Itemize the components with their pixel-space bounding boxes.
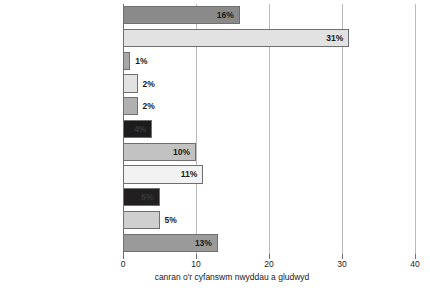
- bar-container: 11%: [123, 165, 203, 183]
- bar-row: pren, corc a gwydr5%: [123, 211, 415, 229]
- bar-value-label: 13%: [195, 238, 217, 248]
- bar-container: 31%: [123, 29, 349, 47]
- bar-value-label: 1%: [135, 56, 152, 66]
- bar-container: 5%: [123, 211, 182, 229]
- y-axis-line: [123, 4, 124, 254]
- x-axis-label: canran o'r cyfanswm nwyddau a gludwyd: [0, 272, 430, 282]
- bar[interactable]: 4%: [123, 120, 152, 138]
- bar-row: bwyd, diod a thybaco16%: [123, 6, 415, 24]
- bar-value-label: 11%: [181, 169, 203, 179]
- bar-container: 4%: [123, 120, 152, 138]
- bar-container: 1%: [123, 52, 153, 70]
- bar[interactable]: [123, 211, 160, 229]
- bar-container: 16%: [123, 6, 240, 24]
- bar[interactable]: [123, 74, 138, 92]
- bar-value-label: 5%: [141, 192, 158, 202]
- bar-value-label: 31%: [326, 33, 348, 43]
- bar-value-label: 16%: [217, 10, 239, 20]
- bar-row: glo a chynnyrch petroliwm4%: [123, 120, 415, 138]
- bar[interactable]: 11%: [123, 165, 203, 183]
- bar-row: mwynau a gwastraff metel2%: [123, 97, 415, 115]
- x-tick-label: 0: [121, 259, 126, 269]
- x-tick-label: 10: [191, 259, 200, 269]
- bar-value-label: 2%: [143, 79, 160, 89]
- bar-row: mwynau a mwynau wedi'u prosesu a deunydd…: [123, 29, 415, 47]
- bar[interactable]: 31%: [123, 29, 349, 47]
- bar-row: gweithgynhyrchion amrywiol heb eu cynnwy…: [123, 188, 415, 206]
- bar-chart: bwyd, diod a thybaco16%mwynau a mwynau w…: [0, 0, 430, 290]
- bar[interactable]: 10%: [123, 143, 196, 161]
- bar-value-label: 5%: [165, 215, 182, 225]
- x-tick-label: 20: [264, 259, 273, 269]
- x-tick-label: 40: [410, 259, 419, 269]
- bar[interactable]: 13%: [123, 234, 218, 252]
- bar-container: 2%: [123, 97, 160, 115]
- bar-value-label: 2%: [143, 101, 160, 111]
- x-axis-label-text: canran o'r cyfanswm nwyddau a gludwyd: [155, 272, 310, 282]
- bar[interactable]: 16%: [123, 6, 240, 24]
- bar-row: amrywiol eraill13%: [123, 234, 415, 252]
- bar-value-label: 4%: [134, 124, 151, 134]
- bar-row: cynnyrch peirianegol11%: [123, 165, 415, 183]
- bar-row: cemegion1%: [123, 52, 415, 70]
- bar-container: 10%: [123, 143, 196, 161]
- bar[interactable]: [123, 97, 138, 115]
- bar-row: gweithgynhyrchion metel10%: [123, 143, 415, 161]
- bar-value-label: 10%: [173, 147, 195, 157]
- bar-container: 2%: [123, 74, 160, 92]
- bar-container: 13%: [123, 234, 218, 252]
- bar-row: tecstilau2%: [123, 74, 415, 92]
- bar[interactable]: 5%: [123, 188, 160, 206]
- bar[interactable]: [123, 52, 130, 70]
- plot-area: bwyd, diod a thybaco16%mwynau a mwynau w…: [123, 4, 415, 254]
- x-tick-label: 30: [337, 259, 346, 269]
- gridline-40: [415, 4, 416, 254]
- bar-container: 5%: [123, 188, 160, 206]
- x-axis: 010203040: [123, 254, 415, 268]
